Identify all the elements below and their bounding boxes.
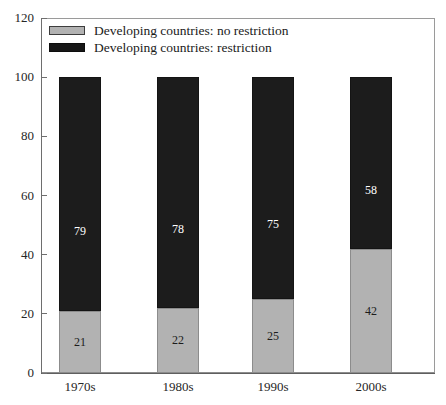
bar-segment-restriction[interactable] — [350, 77, 392, 249]
y-tick-label: 120 — [0, 11, 34, 24]
bar-value-label-no-restriction: 21 — [59, 336, 101, 348]
x-tick-label: 1990s — [233, 380, 313, 394]
legend-label-restriction: Developing countries: restriction — [94, 40, 272, 55]
y-tick-mark — [42, 254, 47, 255]
y-tick-label: 60 — [0, 189, 34, 202]
y-tick-label: 100 — [0, 70, 34, 83]
bar-segment-restriction[interactable] — [157, 77, 199, 308]
caption-remnant — [6, 0, 440, 6]
legend-item-no-restriction[interactable]: Developing countries: no restriction — [49, 22, 311, 39]
stacked-bar-chart: 120100806040200 1970s1980s1990s2000s 217… — [0, 0, 446, 405]
bar-value-label-restriction: 58 — [350, 184, 392, 196]
bar-value-label-restriction: 79 — [59, 225, 101, 237]
bar-segment-restriction[interactable] — [59, 77, 101, 311]
bar-value-label-no-restriction: 42 — [350, 305, 392, 317]
x-axis-line — [41, 373, 435, 374]
bar-value-label-restriction: 78 — [157, 223, 199, 235]
x-tick-label: 2000s — [331, 380, 411, 394]
y-tick-label: 0 — [0, 366, 34, 379]
y-tick-mark — [42, 373, 47, 374]
y-tick-mark — [42, 313, 47, 314]
legend-swatch-dark-icon — [49, 43, 85, 52]
y-tick-label: 80 — [0, 129, 34, 142]
bar-value-label-no-restriction: 22 — [157, 334, 199, 346]
legend-label-no-restriction: Developing countries: no restriction — [94, 23, 289, 38]
y-tick-mark — [42, 77, 47, 78]
y-tick-mark — [42, 136, 47, 137]
x-tick-label: 1980s — [138, 380, 218, 394]
bar-value-label-restriction: 75 — [252, 218, 294, 230]
y-tick-label: 20 — [0, 307, 34, 320]
legend: Developing countries: no restriction Dev… — [49, 22, 311, 56]
x-tick-label: 1970s — [40, 380, 120, 394]
y-tick-mark — [42, 18, 47, 19]
legend-swatch-light-icon — [49, 26, 85, 35]
y-tick-mark — [42, 195, 47, 196]
y-tick-label: 40 — [0, 248, 34, 261]
bar-value-label-no-restriction: 25 — [252, 330, 294, 342]
bar-segment-restriction[interactable] — [252, 77, 294, 299]
legend-item-restriction[interactable]: Developing countries: restriction — [49, 39, 311, 56]
